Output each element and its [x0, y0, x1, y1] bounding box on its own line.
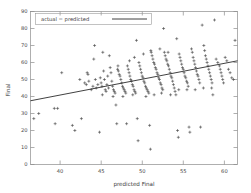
data-point: [224, 56, 227, 59]
data-point: [171, 80, 174, 83]
data-point: [85, 83, 88, 86]
x-tick-label: 60: [221, 168, 228, 174]
data-point: [148, 124, 151, 127]
data-point: [180, 63, 183, 66]
x-tick-labels: 40 45 50 55 60: [57, 168, 228, 174]
data-point: [138, 64, 141, 67]
data-point: [101, 51, 104, 54]
data-point: [162, 27, 165, 30]
data-point: [197, 78, 200, 81]
data-point: [78, 78, 81, 81]
data-point: [198, 81, 201, 84]
data-point: [219, 68, 222, 71]
data-point: [225, 59, 228, 62]
data-point: [112, 95, 115, 98]
data-point: [191, 51, 194, 54]
data-point: [168, 68, 171, 71]
data-point: [107, 87, 110, 90]
data-point: [220, 71, 223, 74]
data-point: [101, 93, 104, 96]
data-point: [116, 64, 119, 67]
data-point: [220, 75, 223, 78]
data-point: [202, 44, 205, 47]
data-point: [102, 70, 105, 73]
data-point: [232, 78, 235, 81]
data-point: [216, 61, 219, 64]
y-tick-label: 70: [21, 42, 28, 48]
data-point: [83, 81, 86, 84]
x-tick-label: 55: [180, 168, 187, 174]
data-point: [135, 39, 138, 42]
data-point: [205, 58, 208, 61]
data-point: [234, 39, 237, 42]
data-point: [172, 83, 175, 86]
y-tick-labels: 0 10 20 30 40 50 60 70 80 90: [21, 8, 28, 167]
data-point: [60, 71, 63, 74]
data-point: [211, 81, 214, 84]
data-point: [206, 61, 209, 64]
data-point: [193, 63, 196, 66]
data-point: [160, 92, 163, 95]
y-tick-label: 80: [21, 25, 28, 31]
data-point: [164, 54, 167, 57]
data-point: [215, 58, 218, 61]
data-point: [174, 90, 177, 93]
data-point: [103, 78, 106, 81]
data-point: [53, 107, 56, 110]
x-axis-title: predicted Final: [113, 181, 155, 188]
data-point: [125, 122, 128, 125]
data-point: [127, 68, 130, 71]
y-tick-label: 90: [21, 8, 28, 14]
data-point: [201, 24, 204, 27]
data-point: [119, 78, 122, 81]
data-point: [230, 76, 233, 79]
data-point: [188, 126, 191, 129]
data-point: [221, 78, 224, 81]
data-point: [213, 19, 216, 22]
data-point: [163, 51, 166, 54]
y-tick-label: 30: [21, 110, 28, 116]
data-point: [99, 76, 102, 79]
data-point: [133, 56, 136, 59]
data-point: [150, 51, 153, 54]
data-point: [149, 148, 152, 151]
y-tick-label: 60: [21, 59, 28, 65]
data-point: [210, 87, 213, 90]
data-point: [179, 56, 182, 59]
data-point: [110, 71, 113, 74]
data-point: [204, 54, 207, 57]
data-point: [177, 136, 180, 139]
data-point: [175, 37, 178, 40]
data-point: [169, 93, 172, 96]
data-points-layer: [32, 19, 236, 151]
data-point: [174, 93, 177, 96]
data-point: [210, 78, 213, 81]
data-point: [187, 85, 190, 88]
data-point: [144, 95, 147, 98]
data-point: [185, 88, 188, 91]
data-point: [110, 80, 113, 83]
data-point: [179, 59, 182, 62]
data-point: [136, 117, 139, 120]
data-point: [211, 93, 214, 96]
y-tick-label: 20: [21, 127, 28, 133]
data-point: [208, 71, 211, 74]
data-point: [121, 95, 124, 98]
data-point: [209, 75, 212, 78]
data-point: [158, 47, 161, 50]
data-point: [207, 68, 210, 71]
data-point: [188, 131, 191, 134]
y-tick-label: 10: [21, 144, 28, 150]
data-point: [140, 71, 143, 74]
data-point: [94, 78, 97, 81]
plot-canvas: 0 10 20 30 40 50 60 70 80 90 40 45 50 55…: [0, 0, 251, 193]
data-point: [106, 75, 109, 78]
data-point: [199, 126, 202, 129]
data-point: [192, 56, 195, 59]
y-tick-label: 40: [21, 93, 28, 99]
legend-entry-label: actual = predicted: [41, 16, 89, 23]
data-point: [142, 53, 145, 56]
data-point: [71, 124, 74, 127]
data-point: [192, 59, 195, 62]
data-point: [80, 117, 83, 120]
